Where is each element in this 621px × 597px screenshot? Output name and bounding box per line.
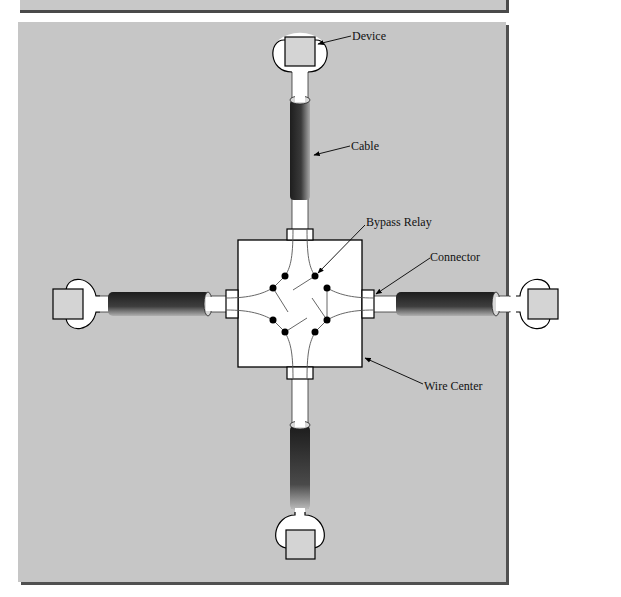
top-device-box [285,37,315,66]
label-device: Device [352,29,386,43]
wire-center-box [238,240,362,367]
wire-center [226,229,374,379]
top-connector [287,229,313,240]
bottom-branch [276,378,325,559]
wire-center-diagram: Device Cable Bypass Relay Connector Wire… [0,0,621,597]
label-connector: Connector [430,250,480,264]
label-bypass-relay: Bypass Relay [366,215,432,229]
right-device-box [528,289,558,319]
top-branch [273,33,327,232]
label-cable: Cable [351,139,379,153]
left-branch [53,279,230,328]
left-cable [108,292,210,316]
bottom-cable [290,425,310,510]
top-cable [290,100,310,200]
left-connector [226,290,238,318]
right-branch [370,279,558,328]
bottom-connector [287,367,313,379]
right-cable [396,292,498,316]
label-wire-center: Wire Center [424,379,483,393]
right-connector [362,290,374,318]
left-device-box [53,289,83,319]
bottom-device-box [286,530,315,559]
